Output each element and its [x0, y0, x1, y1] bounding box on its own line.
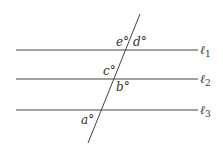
angle-e-label: e° — [116, 35, 129, 49]
angle-b-label: b° — [116, 80, 130, 94]
line-l1-label: ℓ1 — [200, 43, 211, 59]
diagram-canvas: e° d° c° b° a° ℓ1 ℓ2 ℓ3 — [0, 0, 223, 150]
angle-a-label: a° — [81, 113, 94, 127]
line-l3-label: ℓ3 — [200, 103, 211, 119]
line-l2-label: ℓ2 — [200, 72, 211, 88]
angle-d-label: d° — [133, 35, 147, 49]
angle-c-label: c° — [103, 64, 116, 78]
